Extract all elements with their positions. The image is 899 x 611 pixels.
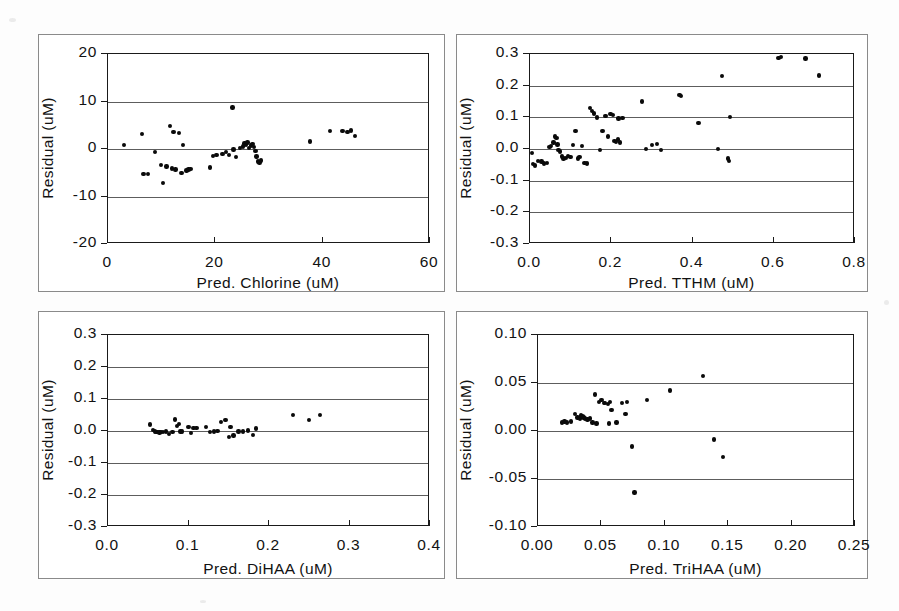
data-point <box>194 426 198 430</box>
xtick-label-trihaa: 0.05 <box>570 536 630 554</box>
xtick-mark-chlorine <box>429 237 430 243</box>
ytick-label-dihaa: -0.3 <box>43 516 97 534</box>
data-point <box>779 55 783 59</box>
gridline-y-tthm <box>530 117 853 118</box>
data-point <box>620 401 624 405</box>
data-point <box>215 429 219 433</box>
data-point <box>177 131 181 135</box>
ytick-mark-trihaa <box>531 430 537 431</box>
ytick-mark-tthm <box>523 116 529 117</box>
data-point <box>231 147 235 151</box>
data-point <box>614 420 618 424</box>
xtick-label-trihaa: 0.15 <box>697 536 757 554</box>
gridline-y-chlorine <box>108 102 428 103</box>
scatter-chart-dihaa: -0.3-0.2-0.10.00.10.20.30.00.10.20.30.4P… <box>39 312 444 578</box>
yaxis-title-tthm: Residual (uM) <box>457 97 475 199</box>
ytick-label-chlorine: -20 <box>43 233 97 251</box>
data-point <box>291 413 295 417</box>
gridline-y-dihaa <box>108 495 428 496</box>
gridline-y-chlorine <box>108 197 428 198</box>
ytick-mark-tthm <box>523 243 529 244</box>
ytick-mark-chlorine <box>101 196 107 197</box>
data-point <box>140 132 144 136</box>
ytick-mark-dihaa <box>101 366 107 367</box>
ytick-label-chlorine: 20 <box>43 43 97 61</box>
xtick-mark-chlorine <box>107 237 108 243</box>
xaxis-title-chlorine: Pred. Chlorine (uM) <box>107 274 429 292</box>
scan-artifact <box>884 300 889 305</box>
ytick-label-trihaa: -0.05 <box>473 468 527 486</box>
data-point <box>558 149 562 153</box>
data-point <box>640 99 644 103</box>
ytick-mark-trihaa <box>531 478 537 479</box>
yaxis-title-dihaa: Residual (uM) <box>39 379 57 481</box>
data-point <box>219 420 223 424</box>
gridline-y-tthm <box>530 86 853 87</box>
data-point <box>186 425 190 429</box>
gridline-y-trihaa <box>538 479 853 480</box>
ytick-mark-tthm <box>523 85 529 86</box>
data-point <box>173 167 177 171</box>
data-point <box>594 421 598 425</box>
ytick-mark-chlorine <box>101 101 107 102</box>
gridline-y-trihaa <box>538 431 853 432</box>
ytick-label-trihaa: 0.10 <box>473 324 527 342</box>
ytick-mark-dihaa <box>101 398 107 399</box>
plot-area-trihaa <box>537 334 854 526</box>
ytick-label-tthm: 0.3 <box>465 43 519 61</box>
plot-area-tthm <box>529 53 854 243</box>
xtick-mark-trihaa <box>537 520 538 526</box>
ytick-label-tthm: 0.2 <box>465 75 519 93</box>
data-point <box>609 408 613 412</box>
data-point <box>153 150 157 154</box>
xtick-label-chlorine: 40 <box>292 253 352 271</box>
data-point <box>241 429 245 433</box>
data-point <box>188 167 192 171</box>
data-point <box>817 73 821 77</box>
data-point <box>227 435 231 439</box>
xtick-mark-tthm <box>773 237 774 243</box>
data-point <box>159 163 163 167</box>
xtick-label-dihaa: 0.1 <box>158 536 218 554</box>
xtick-mark-dihaa <box>349 520 350 526</box>
data-point <box>607 421 611 425</box>
data-point <box>230 105 234 109</box>
xtick-label-tthm: 0.6 <box>743 253 803 271</box>
xtick-mark-dihaa <box>188 520 189 526</box>
data-point <box>253 149 257 153</box>
xtick-mark-tthm <box>610 237 611 243</box>
scatter-chart-tthm: -0.3-0.2-0.10.00.10.20.30.00.20.40.60.8P… <box>457 35 867 291</box>
scan-artifact <box>200 600 206 603</box>
xaxis-title-dihaa: Pred. DiHAA (uM) <box>107 560 429 578</box>
data-point <box>600 129 604 133</box>
data-point <box>720 74 724 78</box>
data-point <box>204 425 208 429</box>
data-point <box>598 148 602 152</box>
xtick-mark-tthm <box>529 237 530 243</box>
xtick-label-trihaa: 0.10 <box>634 536 694 554</box>
data-point <box>177 422 181 426</box>
xtick-label-tthm: 0.4 <box>662 253 722 271</box>
data-point <box>349 128 353 132</box>
data-point <box>623 412 627 416</box>
data-point <box>555 142 559 146</box>
data-point <box>577 155 581 159</box>
data-point <box>161 181 165 185</box>
gridline-y-dihaa <box>108 463 428 464</box>
ytick-mark-chlorine <box>101 53 107 54</box>
xtick-mark-trihaa <box>600 520 601 526</box>
gridline-y-dihaa <box>108 367 428 368</box>
data-point <box>554 136 558 140</box>
scatter-chart-trihaa: -0.10-0.050.000.050.100.000.050.100.150.… <box>457 312 867 578</box>
ytick-label-trihaa: 0.05 <box>473 372 527 390</box>
data-point <box>568 155 572 159</box>
data-point <box>259 158 263 162</box>
data-point <box>318 413 322 417</box>
xtick-mark-trihaa <box>664 520 665 526</box>
data-point <box>181 143 185 147</box>
data-point <box>580 144 584 148</box>
data-point <box>608 400 612 404</box>
data-point <box>227 153 231 157</box>
data-point <box>611 113 615 117</box>
xtick-label-tthm: 0.0 <box>499 253 559 271</box>
